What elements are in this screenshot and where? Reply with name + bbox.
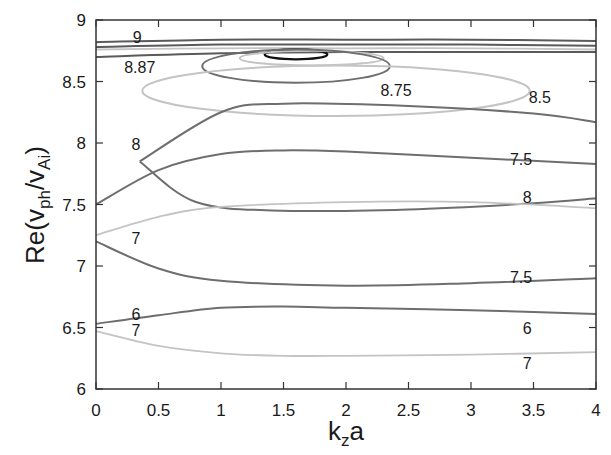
y-tick-label: 8	[77, 134, 86, 153]
curve-label: 8	[132, 136, 141, 153]
curve-0	[96, 39, 596, 42]
curve-label: 8	[523, 189, 532, 206]
curve-14	[96, 331, 596, 356]
x-tick-label: 4	[591, 401, 600, 420]
curve-2	[96, 48, 596, 49]
x-tick-label: 3.5	[522, 401, 546, 420]
y-axis-label: Re(vph/vAi)	[20, 146, 54, 264]
x-tick-label: 0	[91, 401, 100, 420]
curve-11	[96, 201, 596, 235]
curves-layer	[96, 39, 596, 356]
curve-label: 7	[523, 355, 532, 372]
curve-label: 7	[132, 230, 141, 247]
curve-label: 7.5	[510, 269, 532, 286]
curve-1	[96, 44, 596, 47]
curve-label: 6	[523, 320, 532, 337]
y-tick-label: 7.5	[62, 196, 86, 215]
curve-label: 7	[132, 322, 141, 339]
curve-label: 8.75	[380, 82, 411, 99]
y-tick-label: 7	[77, 257, 86, 276]
curve-label: 9	[133, 29, 142, 46]
x-tick-label: 3	[466, 401, 475, 420]
chart: 00.511.522.533.5466.577.588.59 98.878.75…	[0, 0, 611, 455]
curve-label: 8.87	[124, 59, 155, 76]
x-tick-label: 0.5	[147, 401, 171, 420]
y-tick-label: 6	[77, 380, 86, 399]
x-tick-label: 1.5	[272, 401, 296, 420]
x-tick-label: 1	[216, 401, 225, 420]
y-tick-label: 6.5	[62, 319, 86, 338]
y-tick-label: 8.5	[62, 73, 86, 92]
curve-13	[96, 307, 596, 324]
x-axis-label: kza	[328, 416, 365, 450]
x-tick-label: 2.5	[397, 401, 421, 420]
curve-label: 6	[132, 306, 141, 323]
curve-label: 8.5	[529, 89, 551, 106]
curve-label: 7.5	[510, 151, 532, 168]
y-tick-label: 9	[77, 11, 86, 30]
